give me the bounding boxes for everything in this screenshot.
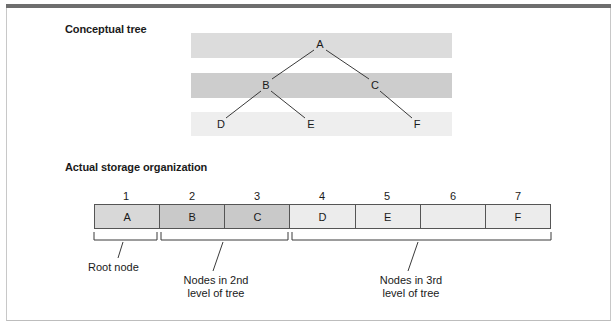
array-cell-2: B <box>160 205 225 228</box>
tree-node-b: B <box>258 79 274 91</box>
caption-level-2-line-2: level of tree <box>176 287 256 300</box>
caption-level-3-line-2: level of tree <box>371 287 451 300</box>
array-index: 2 <box>182 190 202 202</box>
tree-node-d: D <box>213 118 229 130</box>
array-cell-3: C <box>225 205 290 228</box>
storage-title: Actual storage organization <box>65 161 207 173</box>
tree-node-c: C <box>367 79 383 91</box>
array-cell-5: E <box>356 205 421 228</box>
tree-node-a: A <box>312 38 328 50</box>
bracket-level-3 <box>292 232 551 240</box>
leader-level-3 <box>408 242 418 271</box>
array-cell-1: A <box>95 205 160 228</box>
array-cell-6 <box>421 205 486 228</box>
tree-node-f: F <box>409 118 425 130</box>
array-index: 4 <box>312 190 332 202</box>
tree-node-e: E <box>303 118 319 130</box>
leader-root <box>118 242 123 258</box>
caption-level-3: Nodes in 3rd level of tree <box>371 274 451 300</box>
caption-level-3-line-1: Nodes in 3rd <box>371 274 451 287</box>
array-index: 7 <box>508 190 528 202</box>
storage-array: A B C D E F <box>94 204 551 229</box>
array-index: 5 <box>377 190 397 202</box>
array-index: 1 <box>116 190 136 202</box>
array-cell-4: D <box>290 205 355 228</box>
edge-a-c <box>326 50 369 79</box>
array-index: 3 <box>247 190 267 202</box>
caption-level-2-line-1: Nodes in 2nd <box>176 274 256 287</box>
array-index: 6 <box>443 190 463 202</box>
bracket-root <box>94 232 157 240</box>
bracket-level-2 <box>161 232 288 240</box>
edge-c-f <box>380 91 412 118</box>
edge-a-b <box>272 50 314 79</box>
leader-level-2 <box>213 242 223 271</box>
caption-level-2: Nodes in 2nd level of tree <box>176 274 256 300</box>
array-cell-7: F <box>486 205 550 228</box>
edge-b-d <box>226 91 261 118</box>
edge-b-e <box>271 91 305 118</box>
caption-root-node: Root node <box>88 261 139 274</box>
